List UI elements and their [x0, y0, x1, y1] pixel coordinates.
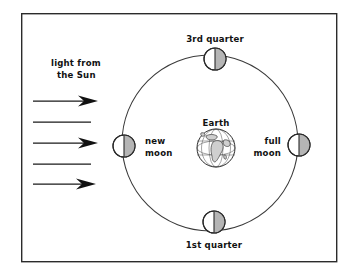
continent-greenland	[201, 133, 205, 137]
earth-group: Earth	[197, 117, 235, 167]
moon-phases-diagram: light from the Sun Earth	[0, 0, 357, 277]
continent-madagascar	[224, 155, 227, 159]
moon-label-full-line2: moon	[253, 147, 281, 158]
diagram-canvas: light from the Sun Earth	[0, 0, 357, 277]
diagram-frame	[22, 14, 337, 262]
sunlight-label: light from the Sun	[51, 57, 101, 80]
sunlight-label-line1: light from	[51, 57, 101, 68]
sunlight-rays-group	[33, 96, 98, 190]
sunlight-ray-3	[33, 138, 98, 149]
sunlight-ray-5	[33, 179, 96, 190]
moon-label-new-line2: moon	[145, 147, 173, 158]
sunlight-label-line2: the Sun	[57, 69, 96, 80]
earth-label: Earth	[203, 117, 230, 128]
moon-first-quarter-group: 1st quarter	[186, 211, 243, 250]
sunlight-ray-1	[33, 96, 98, 107]
moon-shadow-third-quarter	[215, 48, 226, 70]
moon-label-third-quarter: 3rd quarter	[186, 33, 244, 44]
moon-label-new-line1: new	[145, 135, 165, 146]
moon-new-group: new moon	[113, 135, 173, 158]
moon-full-group: full moon	[253, 134, 310, 158]
continent-europe	[206, 135, 217, 141]
moon-shadow-full	[299, 134, 310, 156]
moon-label-full-line1: full	[265, 135, 281, 146]
moon-third-quarter-group: 3rd quarter	[186, 33, 244, 70]
moon-shadow-new	[124, 135, 135, 157]
moon-label-first-quarter: 1st quarter	[186, 239, 243, 250]
